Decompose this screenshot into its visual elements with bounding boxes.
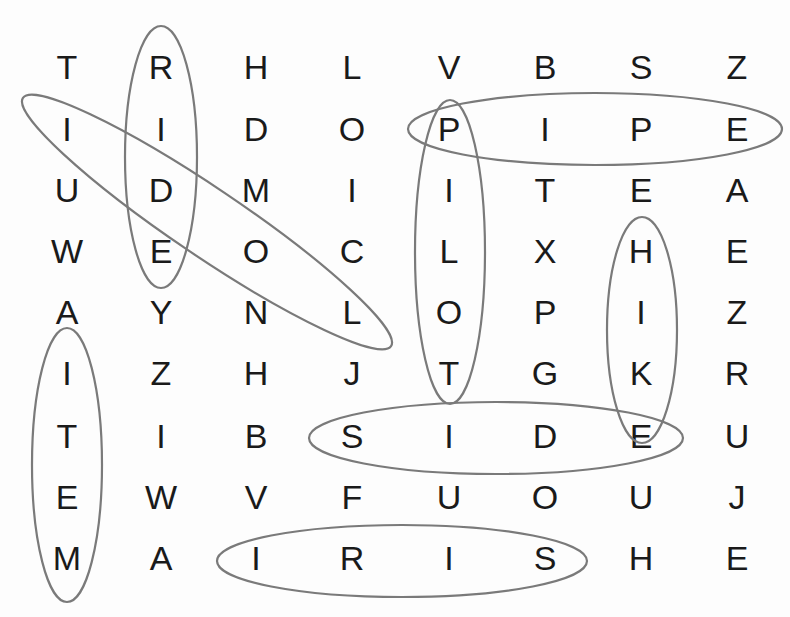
letter-cell[interactable]: T [37, 45, 97, 89]
letter-cell[interactable]: I [419, 414, 479, 458]
letter-cell[interactable]: R [131, 45, 191, 89]
letter-cell[interactable]: S [515, 536, 575, 580]
letter-cell[interactable]: H [611, 536, 671, 580]
letter-cell[interactable]: D [226, 107, 286, 151]
letter-cell[interactable]: T [37, 414, 97, 458]
letter-cell[interactable]: I [419, 536, 479, 580]
letter-cell[interactable]: S [611, 45, 671, 89]
letter-cell[interactable]: U [611, 475, 671, 519]
letter-cell[interactable]: K [611, 351, 671, 395]
letter-cell[interactable]: J [707, 475, 767, 519]
letter-cell[interactable]: I [37, 351, 97, 395]
letter-cell[interactable]: N [226, 290, 286, 334]
letter-cell[interactable]: G [515, 351, 575, 395]
letter-cell[interactable]: L [322, 290, 382, 334]
letter-cell[interactable]: R [322, 536, 382, 580]
letter-cell[interactable]: V [226, 475, 286, 519]
letter-cell[interactable]: Y [131, 290, 191, 334]
letter-cell[interactable]: P [611, 107, 671, 151]
letter-cell[interactable]: J [322, 351, 382, 395]
letter-cell[interactable]: I [37, 107, 97, 151]
letter-cell[interactable]: V [419, 45, 479, 89]
letter-cell[interactable]: U [707, 414, 767, 458]
letter-cell[interactable]: Z [707, 45, 767, 89]
letter-cell[interactable]: S [322, 414, 382, 458]
letter-cell[interactable]: I [131, 414, 191, 458]
letter-cell[interactable]: F [322, 475, 382, 519]
letter-cell[interactable]: C [322, 229, 382, 273]
letter-cell[interactable]: O [322, 107, 382, 151]
letter-cell[interactable]: I [322, 168, 382, 212]
letter-cell[interactable]: I [226, 536, 286, 580]
letter-cell[interactable]: H [226, 45, 286, 89]
letter-cell[interactable]: T [419, 351, 479, 395]
letter-cell[interactable]: T [515, 168, 575, 212]
letter-cell[interactable]: A [131, 536, 191, 580]
letter-cell[interactable]: A [707, 168, 767, 212]
letter-cell[interactable]: U [419, 475, 479, 519]
letter-cell[interactable]: I [515, 107, 575, 151]
letter-cell[interactable]: M [37, 536, 97, 580]
letter-cell[interactable]: X [515, 229, 575, 273]
letter-cell[interactable]: P [515, 290, 575, 334]
letter-cell[interactable]: I [131, 107, 191, 151]
letter-cell[interactable]: L [419, 229, 479, 273]
letter-cell[interactable]: L [322, 45, 382, 89]
letter-cell[interactable]: R [707, 351, 767, 395]
letter-cell[interactable]: O [515, 475, 575, 519]
letter-cell[interactable]: P [419, 107, 479, 151]
letter-cell[interactable]: O [226, 229, 286, 273]
letter-cell[interactable]: H [611, 229, 671, 273]
letter-cell[interactable]: A [37, 290, 97, 334]
letter-cell[interactable]: B [226, 414, 286, 458]
letter-cell[interactable]: E [611, 414, 671, 458]
letter-cell[interactable]: Z [131, 351, 191, 395]
letter-cell[interactable]: E [131, 229, 191, 273]
letter-cell[interactable]: E [611, 168, 671, 212]
letter-cell[interactable]: E [707, 107, 767, 151]
letter-cell[interactable]: D [515, 414, 575, 458]
word-search-board: TRHLVBSZIIDOPIPEUDMIITEAWEOCLXHEAYNLOPIZ… [0, 0, 790, 617]
letter-cell[interactable]: Z [707, 290, 767, 334]
letter-cell[interactable]: H [226, 351, 286, 395]
letter-cell[interactable]: I [419, 168, 479, 212]
letter-cell[interactable]: E [37, 475, 97, 519]
letter-cell[interactable]: E [707, 536, 767, 580]
letter-cell[interactable]: W [131, 475, 191, 519]
letter-cell[interactable]: E [707, 229, 767, 273]
letter-cell[interactable]: O [419, 290, 479, 334]
letter-cell[interactable]: B [515, 45, 575, 89]
letter-cell[interactable]: U [37, 168, 97, 212]
letter-cell[interactable]: D [131, 168, 191, 212]
letter-cell[interactable]: M [226, 168, 286, 212]
letter-cell[interactable]: I [611, 290, 671, 334]
letter-cell[interactable]: W [37, 229, 97, 273]
